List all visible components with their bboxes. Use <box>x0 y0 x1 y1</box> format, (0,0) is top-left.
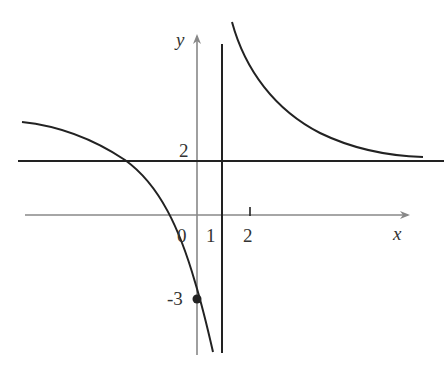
curve-right-branch <box>232 22 423 157</box>
y-tick-label-2: 2 <box>179 140 189 161</box>
y-tick-label-neg3: -3 <box>167 288 183 309</box>
origin-label: 0 <box>177 225 187 246</box>
y-axis-label: y <box>174 29 185 50</box>
x-axis-label: x <box>392 223 402 244</box>
x-tick-label-1: 1 <box>206 225 216 246</box>
function-graph: y x 2 0 1 2 -3 <box>0 0 444 370</box>
y-intercept-point <box>193 295 202 304</box>
x-tick-label-2: 2 <box>243 225 253 246</box>
